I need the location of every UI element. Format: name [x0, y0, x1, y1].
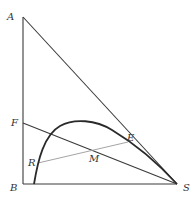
label-a: A	[6, 11, 14, 22]
segment-as	[23, 17, 177, 184]
label-b: B	[9, 182, 17, 193]
label-r: R	[27, 157, 36, 168]
label-e: E	[126, 132, 135, 143]
geometry-diagram: A F B S R M E	[0, 0, 193, 205]
label-s: S	[183, 182, 190, 193]
trajectory-curve	[34, 121, 177, 184]
label-m: M	[88, 153, 100, 164]
segment-re	[38, 142, 128, 163]
segment-fs	[23, 123, 177, 184]
label-f: F	[10, 117, 19, 128]
